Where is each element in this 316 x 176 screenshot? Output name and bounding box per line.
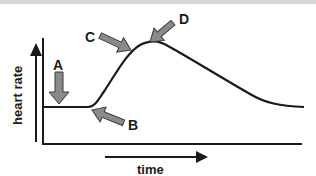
marker-a-label: A — [53, 57, 63, 73]
marker-a-arrow-icon — [49, 72, 69, 104]
y-direction-arrow-icon — [30, 43, 42, 142]
marker-b-arrow-icon — [89, 103, 127, 131]
heart-rate-curve — [43, 41, 304, 107]
marker-c-label: C — [85, 29, 95, 45]
heart-rate-diagram: heart rate A B C D time — [0, 0, 316, 176]
marker-c-arrow-icon — [97, 28, 135, 57]
axes — [42, 38, 302, 144]
y-axis-label: heart rate — [10, 66, 25, 125]
marker-b-label: B — [128, 117, 138, 133]
marker-d-label: D — [179, 11, 189, 27]
x-axis-label: time — [137, 162, 164, 176]
